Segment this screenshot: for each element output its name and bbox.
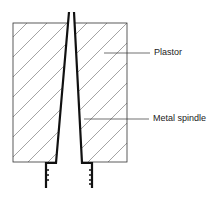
thread-teeth (47, 169, 91, 185)
diagram-canvas (0, 0, 220, 199)
metal-spindle-label: Metal spindle (153, 114, 206, 123)
plaster-block (0, 0, 220, 190)
plaster-label: Plastor (154, 48, 182, 57)
